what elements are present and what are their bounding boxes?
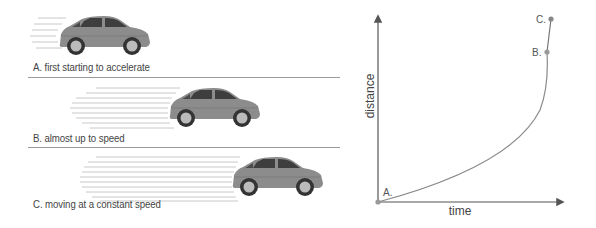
scene-c-label: C. moving at a constant speed (33, 198, 161, 210)
point-c-marker (548, 16, 553, 21)
point-a-marker (375, 199, 380, 204)
scene-b-label: B. almost up to speed (33, 132, 125, 144)
scene-b: B. almost up to speed (0, 78, 350, 148)
speed-lines-icon (78, 155, 242, 203)
scene-a-label: A. first starting to accelerate (33, 61, 150, 73)
point-c-label: C. (536, 14, 546, 25)
speed-lines-icon (68, 86, 180, 130)
scene-c: C. moving at a constant speed (0, 148, 350, 228)
point-b-marker (544, 49, 549, 54)
constant-speed-segment (547, 19, 551, 52)
car-icon (166, 86, 262, 130)
car-icon (229, 155, 325, 199)
distance-time-graph: A. B. C. time distance (355, 0, 596, 228)
point-a-label: A. (383, 187, 392, 198)
scene-a: A. first starting to accelerate (0, 0, 350, 78)
y-axis-label: distance (363, 73, 377, 118)
point-b-label: B. (532, 47, 541, 58)
car-icon (56, 14, 152, 58)
cars-panel: A. first starting to accelerate (0, 0, 350, 228)
x-axis-label: time (449, 204, 472, 218)
distance-curve (378, 52, 547, 202)
